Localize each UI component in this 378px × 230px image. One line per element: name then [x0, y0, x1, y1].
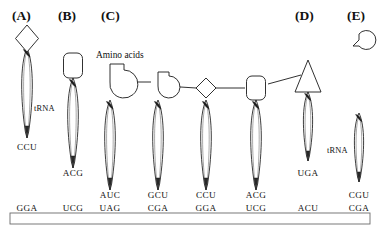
mrna-codon-4: CGA	[144, 203, 172, 213]
mrna-codon-8: CGA	[345, 203, 373, 213]
trna-label-a: tRNA	[34, 104, 55, 113]
trna-group-b	[64, 53, 83, 168]
anticodon-c4: ACG	[242, 190, 270, 200]
amino-acids-label: Amino acids	[96, 50, 144, 60]
trna-group-c3	[196, 78, 216, 190]
amino-acid-pacman-c1	[110, 64, 138, 98]
trna-group-c2	[153, 72, 180, 190]
mrna-codon-1: GGA	[13, 203, 41, 213]
anticodon-c3: CCU	[192, 190, 220, 200]
trna-group-c1	[105, 64, 138, 190]
anticodon-d: UGA	[294, 168, 322, 178]
trna-label-e: tRNA	[327, 146, 348, 155]
figure-canvas: (A) (B) (C) (D) (E)	[0, 0, 378, 230]
diagram-vectors	[0, 0, 378, 230]
anticodon-c1: AUC	[96, 190, 124, 200]
anticodon-a: CCU	[13, 142, 41, 152]
amino-acid-diamond-a	[16, 25, 39, 52]
amino-acid-rounded-square-b	[64, 53, 83, 78]
amino-acid-pacman-c2	[158, 72, 180, 98]
trna-group-e	[353, 31, 376, 183]
mrna-strand	[10, 213, 370, 224]
trna-group-c4	[247, 76, 266, 190]
anticodon-c2: GCU	[144, 190, 172, 200]
amino-acid-diamond-c3	[196, 78, 216, 98]
mrna-codon-3: UAG	[96, 203, 124, 213]
mrna-codon-7: ACU	[294, 203, 322, 213]
mrna-codon-2: UCG	[59, 203, 87, 213]
mrna-codon-6: UCG	[242, 203, 270, 213]
anticodon-b: ACG	[59, 168, 87, 178]
trna-group-a	[16, 25, 39, 138]
anticodon-e: CGU	[345, 190, 373, 200]
amino-acid-teardrop-e	[353, 31, 376, 50]
mrna-codon-5: GGA	[192, 203, 220, 213]
amino-acid-rounded-square-c4	[247, 76, 266, 100]
